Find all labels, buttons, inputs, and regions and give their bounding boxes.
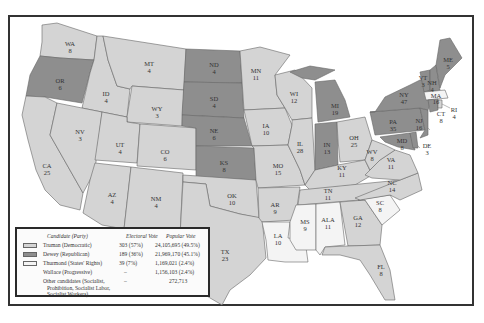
svg-text:12: 12: [291, 97, 298, 104]
label-la: LA: [274, 232, 283, 239]
svg-text:14: 14: [389, 186, 396, 193]
label-ri: RI: [451, 106, 458, 113]
label-or: OR: [55, 77, 65, 84]
svg-text:8: 8: [222, 166, 225, 173]
label-ga: GA: [353, 214, 363, 221]
svg-text:25: 25: [351, 141, 358, 148]
label-ny: NY: [399, 91, 409, 98]
label-md: MD: [397, 137, 408, 144]
label-ok: OK: [227, 192, 237, 199]
label-vt: VT: [419, 74, 428, 81]
svg-text:8: 8: [400, 144, 403, 151]
svg-text:13: 13: [324, 148, 331, 155]
label-il: IL: [297, 140, 303, 147]
state-fl: [322, 245, 395, 300]
svg-text:10: 10: [263, 129, 270, 136]
label-mo: MO: [273, 162, 284, 169]
svg-text:3: 3: [155, 112, 158, 119]
label-oh: OH: [349, 134, 359, 141]
svg-text:9: 9: [273, 208, 276, 215]
svg-text:47: 47: [401, 98, 408, 105]
legend-box: Candidate (Party) Electoral Vote Popular…: [15, 227, 210, 297]
legend-row-dewey: Dewey (Republican) 189 (36%) 21,969,170 …: [21, 251, 211, 259]
svg-text:11: 11: [388, 163, 394, 170]
svg-text:11: 11: [339, 171, 345, 178]
label-de: DE: [423, 142, 432, 149]
label-nv: NV: [75, 128, 85, 135]
label-wy: WY: [152, 105, 163, 112]
label-ms: MS: [300, 218, 310, 225]
label-nc: NC: [387, 179, 396, 186]
legend-row-other: Other candidates (Socialist, Prohibition…: [21, 278, 211, 298]
label-va: VA: [387, 156, 396, 163]
legend-header-popular: Popular Vote: [166, 233, 195, 239]
swatch-truman: [23, 243, 37, 248]
label-id: ID: [103, 90, 110, 97]
label-sd: SD: [210, 95, 219, 102]
swatch-dewey: [23, 252, 37, 257]
legend-row-thurmond: Thurmond (States' Rights) 39 (7%) 1,169,…: [21, 260, 211, 268]
svg-text:11: 11: [325, 223, 331, 230]
label-ks: KS: [220, 159, 229, 166]
label-ct: CT: [437, 110, 445, 117]
label-ca: CA: [42, 162, 51, 169]
label-in: IN: [324, 141, 331, 148]
label-wa: WA: [65, 40, 75, 47]
svg-text:4: 4: [452, 113, 456, 120]
label-mi: MI: [331, 102, 339, 109]
label-ut: UT: [116, 141, 125, 148]
svg-text:8: 8: [68, 47, 71, 54]
svg-text:23: 23: [222, 255, 229, 262]
svg-text:3: 3: [425, 149, 428, 156]
label-nj: NJ: [415, 117, 423, 124]
label-mt: MT: [144, 60, 154, 67]
svg-text:5: 5: [446, 63, 449, 70]
label-sc: SC: [376, 199, 384, 206]
label-co: CO: [160, 148, 169, 155]
state-co: [137, 124, 196, 170]
label-tn: TN: [324, 187, 333, 194]
label-pa: PA: [389, 118, 397, 125]
svg-text:35: 35: [390, 125, 397, 132]
label-me: ME: [443, 56, 453, 63]
svg-text:3: 3: [78, 135, 81, 142]
label-wv: WV: [367, 148, 378, 155]
legend-header-electoral: Electoral Vote: [126, 233, 158, 239]
svg-text:15: 15: [275, 169, 282, 176]
label-ar: AR: [270, 201, 280, 208]
svg-text:10: 10: [275, 239, 282, 246]
label-nh: NH: [427, 79, 437, 86]
svg-text:11: 11: [325, 194, 331, 201]
label-ky: KY: [337, 164, 347, 171]
svg-text:16: 16: [416, 124, 423, 131]
svg-text:11: 11: [253, 74, 259, 81]
swatch-thurmond: [23, 261, 37, 266]
label-wi: WI: [290, 90, 298, 97]
label-nd: ND: [209, 61, 219, 68]
label-al: ALA: [321, 216, 335, 223]
svg-text:28: 28: [297, 147, 304, 154]
svg-text:8: 8: [379, 270, 382, 277]
svg-text:12: 12: [355, 221, 362, 228]
label-tx: TX: [221, 248, 230, 255]
svg-text:8: 8: [378, 206, 381, 213]
label-ia: IA: [263, 122, 270, 129]
legend-row-truman: Truman (Democratic) 303 (57%) 24,105,695…: [21, 242, 211, 250]
svg-text:10: 10: [229, 199, 236, 206]
svg-text:8: 8: [370, 155, 373, 162]
label-az: AZ: [108, 191, 117, 198]
svg-text:8: 8: [439, 117, 442, 124]
legend-row-wallace: Wallace (Progressive) – 1,156,103 (2.4%): [21, 269, 211, 277]
svg-text:16: 16: [433, 98, 440, 105]
svg-text:19: 19: [332, 109, 339, 116]
svg-text:25: 25: [44, 169, 51, 176]
svg-text:9: 9: [303, 225, 306, 232]
label-mn: MN: [251, 67, 262, 74]
legend-header-candidate: Candidate (Party): [47, 233, 88, 239]
label-fl: FL: [377, 263, 385, 270]
svg-text:3: 3: [421, 81, 424, 88]
label-nm: NM: [151, 195, 162, 202]
label-ne: NE: [210, 127, 219, 134]
